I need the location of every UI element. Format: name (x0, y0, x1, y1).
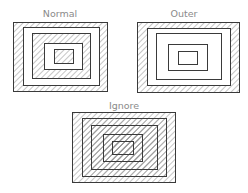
boundary-rect (55, 50, 74, 64)
nested-rects-normal (14, 23, 108, 92)
panel-outer: Outer (138, 8, 240, 93)
panel-ignore: Ignore (73, 100, 176, 183)
hatch-style-diagram: Normal Outer Ignore (0, 0, 248, 193)
diagram-svg: Normal Outer Ignore (0, 0, 248, 193)
label-ignore: Ignore (109, 100, 139, 111)
boundary-rect (179, 52, 198, 65)
nested-rects-outer (138, 23, 240, 93)
boundary-rect (113, 142, 134, 155)
label-normal: Normal (43, 8, 77, 19)
label-outer: Outer (171, 8, 198, 19)
panel-normal: Normal (14, 8, 108, 92)
nested-rects-ignore (73, 113, 176, 183)
